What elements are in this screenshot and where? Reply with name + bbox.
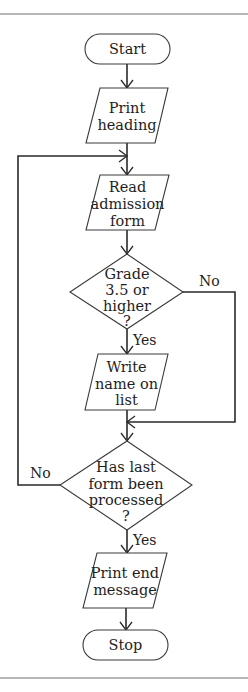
branch-label-last-yes: Yes	[132, 532, 157, 548]
node-label: Start	[109, 41, 146, 57]
node-start: Start	[85, 34, 170, 64]
node-label: Print	[109, 100, 146, 116]
node-label: 3.5 or	[105, 282, 148, 298]
node-label: ?	[123, 313, 131, 329]
node-label: Read	[109, 179, 146, 195]
node-stop: Stop	[83, 630, 168, 660]
node-label: name on	[95, 376, 158, 392]
node-label: admission	[91, 196, 165, 212]
node-print-end: Print end message	[83, 553, 167, 608]
branch-label-grade-no: No	[199, 273, 220, 289]
flowchart-svg: Start Print heading Read admission form …	[0, 0, 248, 692]
node-last-form: Has last form been processed ?	[60, 441, 192, 530]
node-label: list	[115, 392, 138, 408]
node-label: Has last	[96, 459, 156, 475]
node-label: form	[110, 213, 145, 229]
node-label: higher	[103, 298, 151, 314]
node-print-heading: Print heading	[86, 88, 168, 143]
node-label: Grade	[104, 266, 149, 282]
node-label: message	[93, 582, 157, 598]
node-label: form been	[88, 476, 163, 492]
branch-label-grade-yes: Yes	[132, 332, 157, 348]
node-label: Print end	[91, 565, 159, 581]
node-label: ?	[122, 508, 130, 524]
flowchart-canvas: Start Print heading Read admission form …	[0, 0, 248, 692]
node-label: heading	[97, 117, 156, 133]
node-grade-check: Grade 3.5 or higher ?	[70, 254, 183, 329]
node-label: Write	[106, 359, 146, 375]
node-write-name: Write name on list	[85, 354, 168, 410]
branch-label-last-no: No	[30, 465, 51, 481]
node-read-form: Read admission form	[86, 175, 169, 230]
node-label: processed	[89, 492, 163, 508]
node-label: Stop	[109, 637, 143, 653]
